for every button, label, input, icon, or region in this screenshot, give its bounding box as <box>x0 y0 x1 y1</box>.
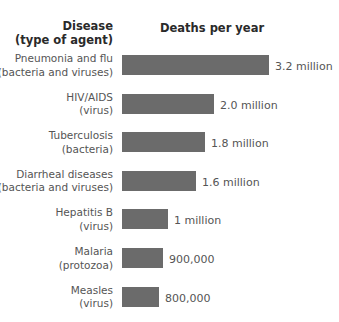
category-name: Diarrheal diseases <box>0 168 113 182</box>
category-label: Diarrheal diseases(bacteria and viruses) <box>0 168 113 195</box>
category-name: Tuberculosis <box>49 129 113 143</box>
category-agent: (protozoa) <box>59 259 113 273</box>
bar <box>122 248 163 268</box>
value-label: 900,000 <box>169 253 215 267</box>
category-agent: (virus) <box>66 104 113 118</box>
bar <box>122 171 196 191</box>
bar <box>122 287 159 307</box>
category-label: Measles(virus) <box>71 284 113 311</box>
value-label: 1 million <box>174 214 221 228</box>
value-label: 2.0 million <box>220 99 278 113</box>
category-agent: (virus) <box>71 297 113 311</box>
value-label: 800,000 <box>165 292 211 306</box>
category-agent: (virus) <box>55 220 113 234</box>
category-name: Measles <box>71 284 113 298</box>
bar <box>122 209 168 229</box>
category-name: Malaria <box>59 245 113 259</box>
category-name: Hepatitis B <box>55 206 113 220</box>
value-label: 1.8 million <box>211 137 269 151</box>
category-agent: (bacteria and viruses) <box>0 66 113 80</box>
value-label: 1.6 million <box>202 176 260 190</box>
deaths-column-header: Deaths per year <box>160 21 264 35</box>
bar-row: Malaria(protozoa)900,000 <box>0 245 339 275</box>
category-agent: (bacteria) <box>49 143 113 157</box>
category-name: Pneumonia and flu <box>0 52 113 66</box>
category-label: Hepatitis B(virus) <box>55 206 113 233</box>
value-label: 3.2 million <box>275 60 333 74</box>
bar <box>122 94 214 114</box>
category-label: Tuberculosis(bacteria) <box>49 129 113 156</box>
bar-row: Measles(virus)800,000 <box>0 284 339 314</box>
bar <box>122 132 205 152</box>
disease-column-header: Disease (type of agent) <box>15 19 113 47</box>
category-agent: (bacteria and viruses) <box>0 181 113 195</box>
category-label: HIV/AIDS(virus) <box>66 91 113 118</box>
bar-row: Hepatitis B(virus)1 million <box>0 206 339 236</box>
bar-row: Diarrheal diseases(bacteria and viruses)… <box>0 168 339 198</box>
disease-header-line2: (type of agent) <box>15 33 113 47</box>
category-label: Malaria(protozoa) <box>59 245 113 272</box>
category-label: Pneumonia and flu(bacteria and viruses) <box>0 52 113 79</box>
bar-row: HIV/AIDS(virus)2.0 million <box>0 91 339 121</box>
bar-row: Tuberculosis(bacteria)1.8 million <box>0 129 339 159</box>
category-name: HIV/AIDS <box>66 91 113 105</box>
bar <box>122 55 269 75</box>
disease-header-line1: Disease <box>15 19 113 33</box>
bar-row: Pneumonia and flu(bacteria and viruses)3… <box>0 52 339 82</box>
